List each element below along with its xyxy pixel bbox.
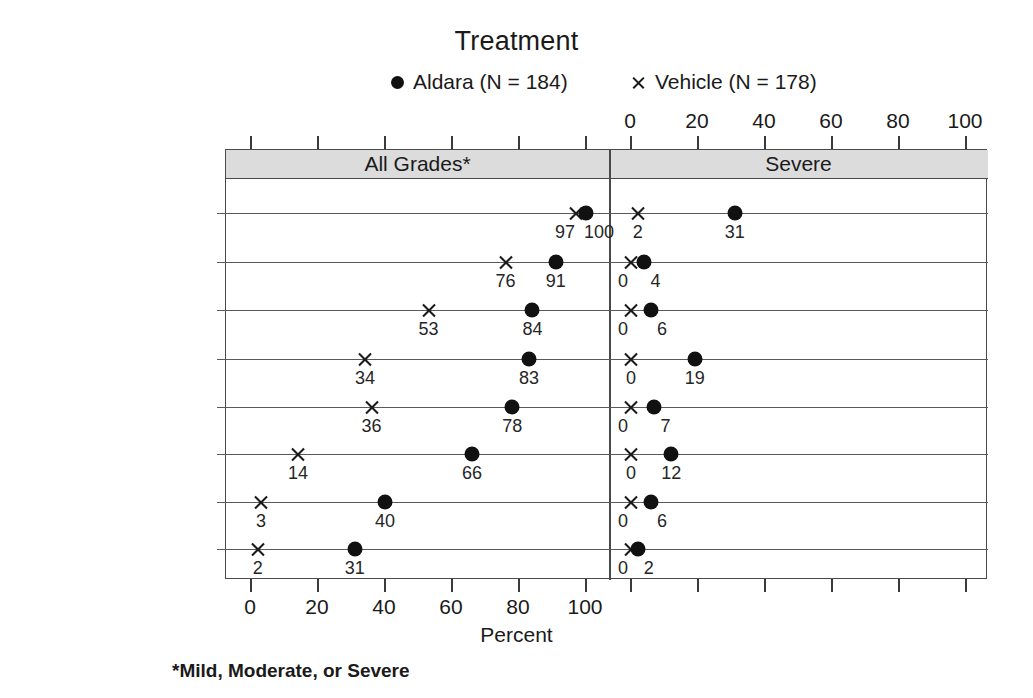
value-aldara-all-grades-flaking-scaling: 91: [546, 271, 566, 292]
point-aldara-all-grades-erosion: [465, 447, 480, 462]
top-left-tick-mark-40: [384, 136, 386, 149]
point-vehicle-all-grades-erosion: [289, 446, 306, 463]
value-aldara-all-grades-scabbing-crusting: 83: [519, 368, 539, 389]
point-vehicle-all-grades-ulceration: [253, 493, 270, 510]
top-left-tick-mark-80: [518, 136, 520, 149]
point-vehicle-all-grades-flaking-scaling: [497, 253, 514, 270]
value-aldara-severe-edema: 7: [660, 416, 670, 437]
value-vehicle-all-grades-induration: 53: [419, 319, 439, 340]
point-aldara-severe-induration: [644, 303, 659, 318]
point-aldara-severe-flaking-scaling: [637, 254, 652, 269]
point-aldara-all-grades-edema: [505, 399, 520, 414]
category-tick-mark: [217, 262, 226, 263]
bottom-tick-mark-0: [250, 579, 252, 592]
top-tick-label-20: 20: [667, 109, 727, 133]
point-aldara-all-grades-scabbing-crusting: [522, 351, 537, 366]
point-vehicle-all-grades-edema: [363, 398, 380, 415]
value-vehicle-all-grades-flaking-scaling: 76: [496, 271, 516, 292]
point-vehicle-all-grades-induration: [420, 302, 437, 319]
row-line: [226, 213, 988, 214]
top-tick-label-60: 60: [801, 109, 861, 133]
bottom-tick-label-0: 0: [220, 595, 280, 619]
point-aldara-all-grades-ulceration: [378, 494, 393, 509]
point-aldara-all-grades-flaking-scaling: [548, 254, 563, 269]
top-tick-label-0: 0: [600, 109, 660, 133]
value-aldara-all-grades-edema: 78: [502, 416, 522, 437]
bottom-right-tick-mark-80: [898, 579, 900, 592]
bottom-right-tick-mark-0: [630, 579, 632, 592]
bottom-tick-mark-60: [451, 579, 453, 592]
value-vehicle-all-grades-ulceration: 3: [256, 511, 266, 532]
chart-legend: Aldara (N = 184) Vehicle (N = 178): [0, 70, 1033, 98]
top-tick-label-40: 40: [734, 109, 794, 133]
point-vehicle-severe-scabbing-crusting: [623, 350, 640, 367]
legend-item-vehicle: Vehicle (N = 178): [631, 70, 817, 94]
panel-header-all-grades: All Grades*: [226, 150, 609, 179]
point-aldara-severe-erythema: [727, 206, 742, 221]
point-vehicle-all-grades-scabbing-crusting: [356, 350, 373, 367]
bottom-tick-label-20: 20: [287, 595, 347, 619]
bottom-right-tick-mark-40: [764, 579, 766, 592]
row-line: [226, 454, 988, 455]
point-vehicle-severe-erythema: [629, 205, 646, 222]
cross-x-icon: [631, 75, 646, 90]
value-vehicle-severe-vesicles: 0: [618, 558, 628, 579]
chart-footnote: *Mild, Moderate, or Severe: [172, 660, 410, 682]
top-tick-mark-20: [697, 136, 699, 149]
bottom-tick-mark-20: [317, 579, 319, 592]
point-aldara-all-grades-erythema: [579, 206, 594, 221]
bottom-tick-mark-100: [585, 579, 587, 592]
top-tick-label-100: 100: [935, 109, 995, 133]
value-aldara-all-grades-erythema: 100: [584, 222, 614, 243]
point-aldara-severe-erosion: [664, 447, 679, 462]
top-left-tick-mark-100: [585, 136, 587, 149]
value-vehicle-all-grades-vesicles: 2: [253, 558, 263, 579]
filled-circle-icon: [391, 76, 404, 89]
row-line: [226, 359, 988, 360]
point-vehicle-all-grades-vesicles: [249, 541, 266, 558]
category-tick-mark: [217, 502, 226, 503]
value-aldara-severe-scabbing-crusting: 19: [685, 368, 705, 389]
top-left-tick-mark-0: [250, 136, 252, 149]
panel-divider: [609, 150, 611, 580]
category-tick-mark: [217, 549, 226, 550]
point-aldara-all-grades-vesicles: [347, 542, 362, 557]
value-vehicle-all-grades-scabbing-crusting: 34: [355, 368, 375, 389]
bottom-tick-mark-80: [518, 579, 520, 592]
bottom-right-tick-mark-60: [831, 579, 833, 592]
bottom-right-tick-mark-20: [697, 579, 699, 592]
value-vehicle-severe-induration: 0: [618, 319, 628, 340]
value-vehicle-severe-edema: 0: [618, 416, 628, 437]
point-vehicle-severe-edema: [623, 398, 640, 415]
row-line: [226, 310, 988, 311]
point-aldara-severe-edema: [647, 399, 662, 414]
value-aldara-all-grades-erosion: 66: [462, 463, 482, 484]
value-aldara-all-grades-ulceration: 40: [375, 511, 395, 532]
bottom-tick-label-100: 100: [555, 595, 615, 619]
value-aldara-severe-erosion: 12: [661, 463, 681, 484]
value-aldara-severe-induration: 6: [657, 319, 667, 340]
category-tick-mark: [217, 359, 226, 360]
panel-header-severe: Severe: [609, 150, 988, 179]
top-tick-mark-40: [764, 136, 766, 149]
bottom-tick-label-40: 40: [354, 595, 414, 619]
row-line: [226, 262, 988, 263]
value-aldara-severe-flaking-scaling: 4: [650, 271, 660, 292]
chart-page: Treatment Aldara (N = 184) Vehicle (N = …: [0, 0, 1033, 698]
value-vehicle-severe-erosion: 0: [626, 463, 636, 484]
value-aldara-severe-erythema: 31: [725, 222, 745, 243]
plot-frame: All Grades* Severe ErythemaFlaking/Scali…: [225, 149, 987, 579]
category-tick-mark: [217, 310, 226, 311]
row-line: [226, 407, 988, 408]
point-aldara-severe-ulceration: [644, 494, 659, 509]
value-aldara-all-grades-induration: 84: [522, 319, 542, 340]
top-left-tick-mark-60: [451, 136, 453, 149]
bottom-tick-mark-40: [384, 579, 386, 592]
bottom-tick-label-80: 80: [488, 595, 548, 619]
value-vehicle-severe-ulceration: 0: [618, 511, 628, 532]
value-vehicle-severe-flaking-scaling: 0: [618, 271, 628, 292]
bottom-tick-label-60: 60: [421, 595, 481, 619]
category-tick-mark: [217, 407, 226, 408]
top-tick-mark-80: [898, 136, 900, 149]
row-line: [226, 502, 988, 503]
